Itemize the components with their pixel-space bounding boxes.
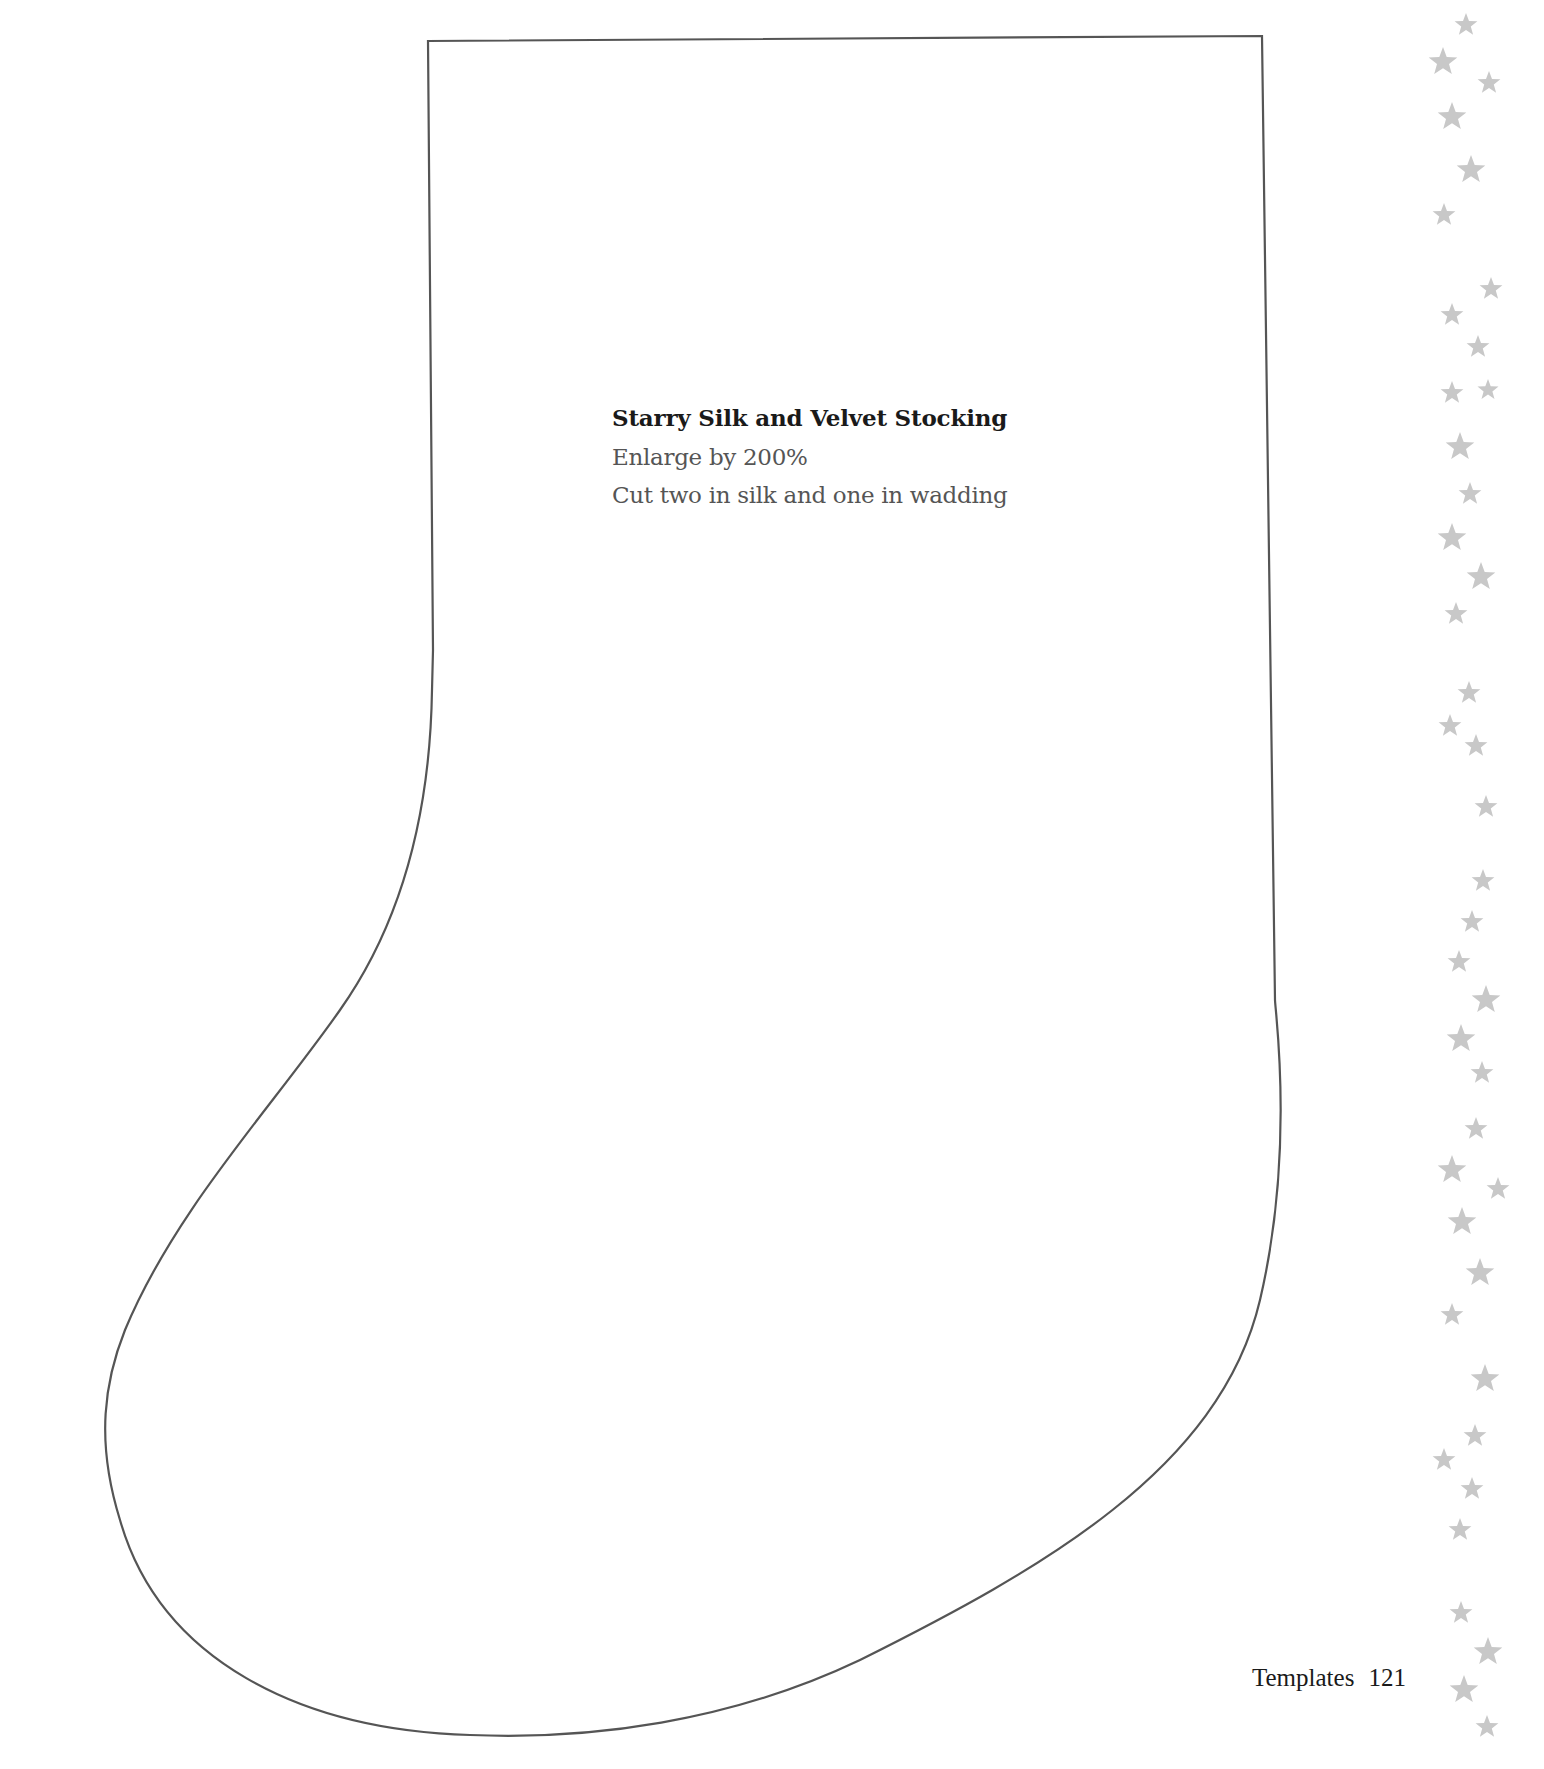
- stocking-template-outline: [0, 0, 1544, 1769]
- page-number: 121: [1368, 1664, 1406, 1691]
- enlarge-instruction: Enlarge by 200%: [612, 438, 1007, 476]
- footer-section-label: Templates: [1252, 1664, 1354, 1691]
- template-label: Starry Silk and Velvet Stocking Enlarge …: [612, 398, 1007, 514]
- page-footer: Templates121: [1252, 1664, 1406, 1692]
- book-page: Starry Silk and Velvet Stocking Enlarge …: [0, 0, 1544, 1769]
- cutting-instruction: Cut two in silk and one in wadding: [612, 476, 1007, 514]
- template-title: Starry Silk and Velvet Stocking: [612, 398, 1007, 438]
